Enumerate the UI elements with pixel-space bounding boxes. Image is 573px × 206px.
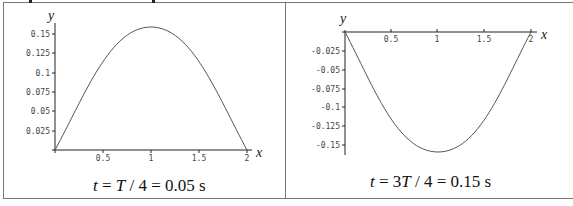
right-ytick-label: -0.1 (321, 103, 340, 112)
right-x-label: x (540, 27, 548, 42)
caption-var-T: T (401, 172, 410, 191)
right-caption: t = 3T / 4 = 0.15 s (370, 172, 491, 192)
left-y-label: y (46, 8, 55, 23)
right-ytick-label: -0.125 (311, 122, 340, 131)
left-caption: t = T / 4 = 0.05 s (93, 176, 206, 196)
left-xtick-label: 0.5 (96, 154, 111, 163)
left-xtick-label: 1 (149, 154, 154, 163)
right-xtick-label: 1.5 (477, 35, 492, 44)
left-ytick-label: 0.075 (26, 88, 50, 97)
right-xtick-label: 1 (435, 35, 440, 44)
caption-var-T: T (116, 176, 125, 195)
caption-text: = 3 (375, 172, 402, 191)
right-ytick-label: -0.025 (311, 47, 340, 56)
left-curve (55, 27, 247, 150)
left-xtick-label: 2 (245, 154, 250, 163)
left-x-label: x (255, 145, 263, 160)
caption-text: / 4 = 0.15 s (411, 172, 491, 191)
left-ytick-label: 0.125 (26, 49, 50, 58)
right-xtick-label: 2 (529, 35, 534, 44)
right-curve (345, 32, 531, 152)
right-ytick-label: -0.05 (316, 66, 340, 75)
caption-text: / 4 = 0.05 s (125, 176, 205, 195)
right-ytick-label: -0.075 (311, 85, 340, 94)
left-ytick-label: 0.1 (36, 69, 51, 78)
right-ytick-label: -0.15 (316, 141, 340, 150)
left-ytick-label: 0.05 (31, 107, 50, 116)
caption-text: = (98, 176, 116, 195)
left-ytick-label: 0.15 (31, 30, 50, 39)
left-xtick-label: 1.5 (192, 154, 207, 163)
right-y-label: y (338, 11, 347, 26)
left-ytick-label: 0.025 (26, 127, 50, 136)
right-xtick-label: 0.5 (384, 35, 399, 44)
